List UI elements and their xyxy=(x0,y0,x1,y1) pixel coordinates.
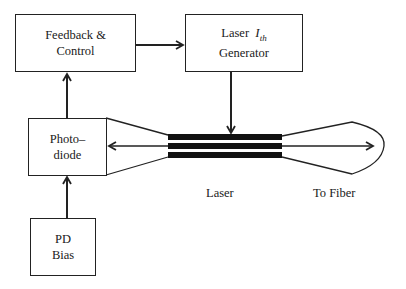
pd-bias-line2: Bias xyxy=(52,247,74,263)
feedback-control-line2: Control xyxy=(56,43,94,59)
laser-ith-generator-block: Laser Ith Generator xyxy=(185,14,303,72)
photodiode-line1: Photo– xyxy=(50,131,85,147)
laser-chip xyxy=(168,134,282,158)
generator-line1: Laser Ith xyxy=(221,25,266,46)
feedback-control-block: Feedback & Control xyxy=(15,14,136,72)
ith-symbol: Ith xyxy=(255,25,266,40)
fiber-emission-lobe xyxy=(282,122,384,174)
pd-bias-block: PD Bias xyxy=(30,218,96,276)
ith-symbol-sub: th xyxy=(260,32,267,42)
feedback-control-line1: Feedback & xyxy=(45,27,106,43)
photodiode-block: Photo– diode xyxy=(28,118,107,176)
pd-bias-line1: PD xyxy=(55,231,71,247)
generator-line1-prefix: Laser xyxy=(221,26,249,40)
laser-label: Laser xyxy=(206,186,234,201)
to-fiber-label: To Fiber xyxy=(313,186,356,201)
generator-line2: Generator xyxy=(219,45,269,61)
photodiode-line2: diode xyxy=(54,147,82,163)
